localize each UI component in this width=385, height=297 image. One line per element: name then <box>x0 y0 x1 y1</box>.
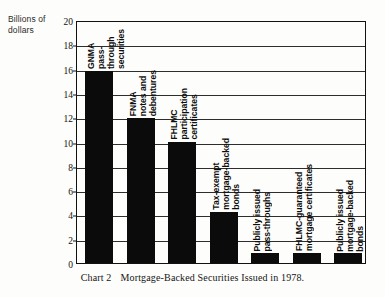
y-tick-label: 18 <box>64 41 74 51</box>
bar-label-line: FNMA <box>128 70 138 116</box>
gridline <box>77 71 365 72</box>
bar-label: FNMAnotes anddebentures <box>128 70 158 116</box>
chart-caption: Chart 2Mortgage-Backed Securities Issued… <box>0 272 385 283</box>
bar <box>210 212 238 263</box>
y-tick-mark <box>73 94 77 95</box>
gridline <box>77 119 365 120</box>
bar-label: Publicly issuedmortgage-backedbonds <box>335 180 365 252</box>
bar-label-line: participation <box>179 88 189 140</box>
y-tick-label: 14 <box>64 90 74 100</box>
bar-label-line: bonds <box>231 138 241 210</box>
bar-label-line: GNMA <box>86 22 96 69</box>
bar-label-line: pass-throughs <box>262 189 272 252</box>
bar-label-line: Publicly issued <box>252 189 262 252</box>
y-tick-mark <box>73 192 77 193</box>
y-tick-label: 12 <box>64 114 74 124</box>
y-axis-title-line-1: Billions of <box>8 14 45 24</box>
y-tick-mark <box>73 70 77 71</box>
bar-label-line: bonds <box>355 180 365 252</box>
caption-text: Mortgage-Backed Securities Issued in 197… <box>121 272 305 283</box>
bar <box>251 253 279 263</box>
y-tick-mark <box>73 46 77 47</box>
y-axis-title-line-2: dollars <box>8 25 34 35</box>
y-tick-label: 16 <box>64 66 74 76</box>
bar-label-line: mortgage-backed <box>345 180 355 252</box>
y-tick-mark <box>73 216 77 217</box>
bar-label-line: FHLMC-guaranteed <box>294 164 304 251</box>
bar <box>168 142 196 264</box>
bar-label-line: pass-through <box>96 22 116 69</box>
bar <box>334 253 362 263</box>
bar <box>293 253 321 263</box>
bar-label-line: mortgage-backed <box>221 138 231 210</box>
y-tick-label: 0 <box>68 260 73 270</box>
y-tick-mark <box>73 143 77 144</box>
bar-label: FHLMC-guaranteedmortgage certificates <box>294 164 314 251</box>
bar-label-line: securities <box>116 22 126 69</box>
y-axis-title: Billions of dollars <box>8 14 70 36</box>
bar-label-line: FHLMC <box>169 88 179 140</box>
y-tick-mark <box>73 240 77 241</box>
bar-label-line: certificates <box>189 88 199 140</box>
bar <box>127 118 155 263</box>
bar-label-line: Publicly issued <box>335 180 345 252</box>
bar-label-line: Tax-exempt <box>211 138 221 210</box>
bar-label: FHLMCparticipationcertificates <box>169 88 199 140</box>
y-tick-label: 10 <box>64 139 74 149</box>
bar-label-line: debentures <box>148 70 158 116</box>
bar-label-line: notes and <box>138 70 148 116</box>
gridline <box>77 95 365 96</box>
bar-label: Tax-exemptmortgage-backedbonds <box>211 138 241 210</box>
bar-label: GNMApass-throughsecurities <box>86 22 126 69</box>
caption-number: Chart 2 <box>81 272 112 283</box>
y-tick-mark <box>73 119 77 120</box>
chart-figure: Billions of dollars 02468101214161820 GN… <box>0 0 385 297</box>
y-tick-label: 20 <box>64 17 74 27</box>
bar-label-line: mortgage certificates <box>304 164 314 251</box>
plot-area: 02468101214161820 GNMApass-throughsecuri… <box>76 21 366 264</box>
y-tick-mark <box>73 167 77 168</box>
bar <box>85 71 113 263</box>
bar-label: Publicly issuedpass-throughs <box>252 189 272 252</box>
